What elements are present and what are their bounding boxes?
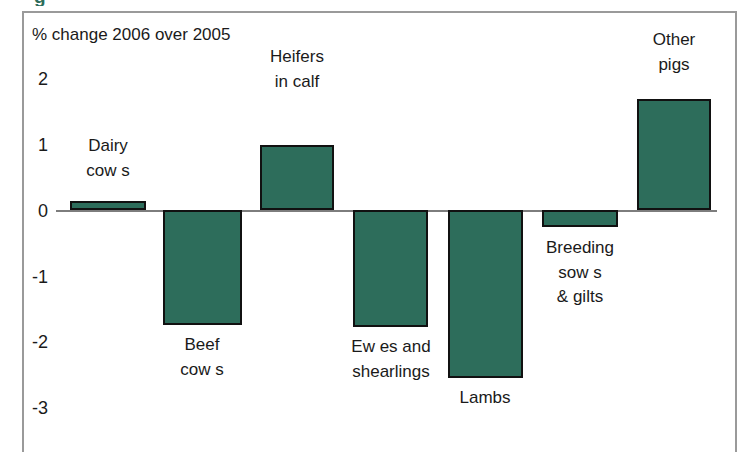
y-tick-label-2: 2 [14, 69, 48, 90]
bar-breeding-sows-and-gilts [542, 210, 618, 227]
bar-label-breeding-sows-and-gilts: Breeding sow s & gilts [530, 236, 630, 310]
y-tick-label-minus-3: -3 [14, 398, 48, 419]
bar-dairy-cows [70, 201, 146, 210]
y-tick-label-1: 1 [14, 135, 48, 156]
y-tick-label-0: 0 [14, 201, 48, 222]
y-tick-label-minus-2: -2 [14, 332, 48, 353]
bar-label-heifers-in-calf: Heifers in calf [247, 45, 347, 94]
bar-label-beef-cows: Beef cow s [152, 333, 252, 382]
chart-screenshot: g % change 2006 over 2005 2 1 0 -1 -2 -3… [0, 0, 746, 452]
bar-other-pigs [637, 99, 711, 210]
axis-unit-note: % change 2006 over 2005 [32, 25, 231, 45]
bar-label-ewes-and-shearlings: Ew es and shearlings [332, 335, 450, 384]
bar-heifers-in-calf [260, 145, 334, 211]
bar-label-other-pigs: Other pigs [624, 28, 724, 77]
bar-ewes-and-shearlings [353, 210, 428, 327]
bar-beef-cows [163, 210, 242, 325]
bar-label-lambs: Lambs [435, 386, 535, 411]
bar-label-dairy-cows: Dairy cow s [58, 134, 158, 183]
bar-chart-plot: % change 2006 over 2005 2 1 0 -1 -2 -3 D… [0, 0, 746, 452]
y-tick-label-minus-1: -1 [14, 267, 48, 288]
bar-lambs [448, 210, 523, 378]
